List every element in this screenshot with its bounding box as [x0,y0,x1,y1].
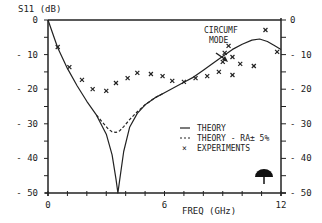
x-tick-label: 12 [276,200,287,210]
y-tick-label-left: - 40 [16,153,38,163]
legend-label-experiments: EXPERIMENTS [197,144,250,153]
experiment-marker [161,74,165,78]
y-tick-label-left: - 20 [16,84,38,94]
y-tick-label-left: - 30 [16,119,38,129]
x-tick-label: 6 [162,200,167,210]
y-tick-label-right: 0 [290,15,295,25]
y-axis-title: S11 (dB) [18,4,61,14]
experiment-marker [126,76,130,80]
theory-solid-line [48,20,281,193]
axis-ticks: 00- 10- 10- 20- 20- 30- 30- 40- 40- 50- … [16,15,311,210]
experiment-marker [263,28,267,32]
y-tick-label-left: - 50 [16,188,38,198]
antenna-dome-icon [255,169,273,184]
experiment-marker [170,79,174,83]
legend-label-theory-ra: THEORY - RA± 5% [197,134,269,143]
y-tick-label-right: - 40 [290,153,312,163]
legend-label-theory: THEORY [197,124,226,133]
experiment-marker [205,74,209,78]
experiment-marker [238,62,242,66]
experiment-marker [104,89,108,93]
y-tick-label-left: - 10 [16,50,38,60]
plot-axes [45,18,286,196]
x-axis-title: FREQ (GHz) [182,206,236,216]
y-tick-label-right: - 20 [290,84,312,94]
y-tick-label-right: - 50 [290,188,312,198]
experiment-marker [80,78,84,82]
experiment-marker [135,71,139,75]
experiment-marker [230,55,234,59]
experiment-marker [67,65,71,69]
experiment-marker [252,64,256,68]
y-tick-label-right: - 30 [290,119,312,129]
x-tick-label: 0 [45,200,50,210]
annotation-line2: MODE [209,36,228,45]
experiment-marker [275,50,279,54]
legend-x-marker: × [182,144,187,153]
y-tick-label-left: 0 [33,15,38,25]
legend: THEORY THEORY - RA± 5% × EXPERIMENTS [180,124,269,153]
experiment-marker [217,70,221,74]
experiment-marker [114,81,118,85]
experiment-marker [194,76,198,80]
experiment-marker [149,72,153,76]
experiment-marker [230,73,234,77]
y-tick-label-right: - 10 [290,50,312,60]
data-series [48,20,281,193]
s11-frequency-chart: S11 (dB) FREQ (GHz) 00- 10- 10- 20- 20- … [0,0,322,223]
experiment-marker [91,87,95,91]
annotation-line1: CIRCUMF [204,26,238,35]
